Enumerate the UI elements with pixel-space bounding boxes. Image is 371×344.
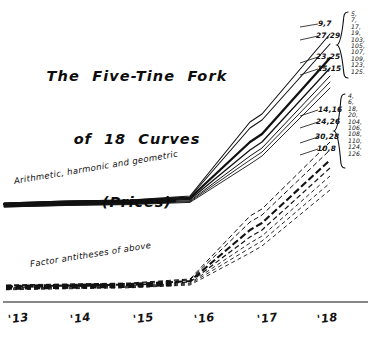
- x-tick-4: '17: [256, 310, 278, 326]
- leader-lower-a: [300, 110, 318, 116]
- series-label-lower-4: 10,8: [317, 144, 336, 153]
- x-tick-2: '15: [132, 310, 154, 326]
- x-tick-1: '14: [69, 310, 91, 326]
- lower-bracket-numbers: 4, 6, 18, 20, 104, 106, 108, 110, 124, 1…: [348, 93, 362, 157]
- series-label-upper-2: 27,29: [316, 31, 340, 40]
- leader-lower-d: [300, 149, 318, 155]
- x-tick-0: '13: [7, 310, 29, 326]
- series-label-lower-3: 30,28: [315, 132, 339, 141]
- x-tick-5: '18: [316, 310, 338, 326]
- x-tick-3: '16: [193, 310, 215, 326]
- series-label-lower-2: 24,26: [316, 117, 340, 126]
- series-label-upper-4: 15,15: [317, 64, 341, 73]
- leader-upper-a: [300, 24, 318, 27]
- series-label-upper-1: 9,7: [318, 19, 332, 28]
- page-title: The Five-Tine Fork of 18 Curves (Prices): [44, 24, 230, 255]
- title-line-3: (Prices): [44, 192, 230, 213]
- chart-canvas: The Five-Tine Fork of 18 Curves (Prices)…: [0, 0, 371, 344]
- title-line-2: of 18 Curves: [44, 129, 230, 150]
- series-label-lower-1: 14,16: [318, 105, 342, 114]
- bracket-num: 126.: [348, 151, 362, 157]
- upper-bracket-numbers: 5, 7, 17, 19, 103, 105, 107, 109, 123, 1…: [351, 11, 365, 75]
- bracket-num: 125.: [351, 69, 365, 75]
- series-label-upper-3: 23,25: [316, 52, 340, 61]
- title-line-1: The Five-Tine Fork: [44, 66, 230, 87]
